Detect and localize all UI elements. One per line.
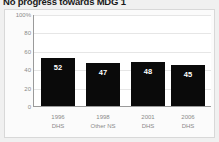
chart-title: No progress towards MDG 1: [3, 0, 216, 8]
x-tick-source: DHS: [35, 122, 81, 131]
bar-value-label: 48: [131, 68, 165, 76]
bar-value-label: 45: [171, 71, 205, 79]
x-tick-year: 2001: [141, 114, 154, 120]
y-tick-label: 20: [7, 86, 31, 92]
bar[interactable]: 47: [86, 63, 120, 106]
x-tick-label: 2006 DHS: [165, 113, 211, 131]
bar-value-label: 52: [41, 64, 75, 72]
y-axis-tick-labels: 100% 80 60 40 20 0: [5, 15, 31, 107]
bars-layer: 52 47 48 45: [33, 15, 211, 107]
bar[interactable]: 45: [171, 65, 205, 106]
bar-value-label: 47: [86, 69, 120, 77]
y-tick-label: 80: [7, 30, 31, 36]
y-tick-label: 100%: [7, 12, 31, 18]
chart-figure-frame: 100% 80 60 40 20 0 52 47 48: [4, 9, 215, 138]
x-tick-label: 1998 Other NS: [80, 113, 126, 131]
x-axis-tick-labels: 1996 DHS 1998 Other NS 2001 DHS 2006 DHS: [33, 113, 211, 137]
x-tick-label: 1996 DHS: [35, 113, 81, 131]
x-tick-year: 2006: [181, 114, 194, 120]
y-tick-label: 0: [7, 104, 31, 110]
x-tick-source: DHS: [165, 122, 211, 131]
y-tick-label: 40: [7, 67, 31, 73]
x-tick-year: 1996: [51, 114, 64, 120]
y-tick-label: 60: [7, 49, 31, 55]
bar[interactable]: 48: [131, 62, 165, 106]
bar[interactable]: 52: [41, 58, 75, 106]
x-tick-source: Other NS: [80, 122, 126, 131]
x-tick-year: 1998: [96, 114, 109, 120]
